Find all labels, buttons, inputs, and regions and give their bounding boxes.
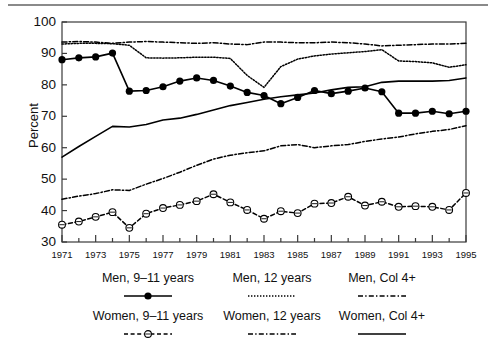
series-marker-filled [109, 50, 116, 57]
series-line-4 [62, 126, 466, 200]
series-marker-filled [429, 108, 436, 115]
legend-label: Women, Col 4+ [312, 310, 452, 324]
legend-label: Women, 9–11 years [78, 310, 218, 324]
chart-legend: Men, 9–11 yearsMen, 12 yearsMen, Col 4+ … [0, 272, 496, 348]
series-marker-filled [58, 56, 65, 63]
legend-item: Women, 9–11 years [78, 310, 218, 341]
x-tick-label: 1983 [247, 250, 281, 260]
x-tick-label: 1989 [348, 250, 382, 260]
legend-item: Men, 9–11 years [78, 272, 218, 303]
series-marker-filled [395, 110, 402, 117]
figure-container: Percent 10090807060504030 19711973197519… [0, 0, 496, 348]
legend-swatch [312, 289, 452, 303]
legend-label: Men, 9–11 years [78, 272, 218, 286]
series-marker-filled [75, 54, 82, 61]
legend-swatch-dashed-with-open-circles [120, 327, 176, 341]
x-tick-label: 1971 [45, 250, 79, 260]
x-tick-label: 1977 [146, 250, 180, 260]
legend-swatch-dotted [244, 289, 300, 303]
series-marker-filled [227, 83, 234, 90]
series-marker-filled [193, 74, 200, 81]
series-marker-filled [244, 89, 251, 96]
legend-swatch [312, 327, 452, 341]
series-line-5 [62, 78, 466, 157]
series-marker-filled [462, 108, 469, 115]
series-marker-filled [260, 92, 267, 99]
plot-frame [62, 22, 466, 242]
legend-item: Women, Col 4+ [312, 310, 452, 341]
series-marker-filled [446, 110, 453, 117]
legend-swatch-dash-dot [244, 327, 300, 341]
series-marker-filled [92, 53, 99, 60]
legend-item: Men, Col 4+ [312, 272, 452, 303]
legend-label: Men, Col 4+ [312, 272, 452, 286]
x-tick-label: 1993 [415, 250, 449, 260]
legend-row-men: Men, 9–11 yearsMen, 12 yearsMen, Col 4+ [0, 272, 496, 310]
legend-swatch [78, 289, 218, 303]
series-marker-filled [412, 110, 419, 117]
series-line-0 [62, 53, 466, 114]
x-tick-label: 1979 [180, 250, 214, 260]
series-marker-filled [277, 100, 284, 107]
legend-swatch-marker-filled [144, 292, 151, 299]
x-tick-label: 1973 [79, 250, 113, 260]
x-tick-label: 1987 [314, 250, 348, 260]
legend-swatch-solid-with-filled-circles [120, 289, 176, 303]
series-marker-filled [378, 88, 385, 95]
series-marker-filled [345, 88, 352, 95]
series-marker-filled [143, 87, 150, 94]
x-tick-label: 1975 [112, 250, 146, 260]
x-tick-label: 1991 [382, 250, 416, 260]
series-marker-filled [126, 88, 133, 95]
series-marker-filled [176, 77, 183, 84]
x-tick-label: 1981 [213, 250, 247, 260]
series-marker-filled [159, 83, 166, 90]
legend-swatch-solid [354, 327, 410, 341]
legend-swatch [78, 327, 218, 341]
x-tick-label: 1995 [449, 250, 483, 260]
legend-swatch-dash-dot [354, 289, 410, 303]
x-tick-label: 1985 [281, 250, 315, 260]
legend-row-women: Women, 9–11 yearsWomen, 12 yearsWomen, C… [0, 310, 496, 348]
series-marker-filled [210, 77, 217, 84]
